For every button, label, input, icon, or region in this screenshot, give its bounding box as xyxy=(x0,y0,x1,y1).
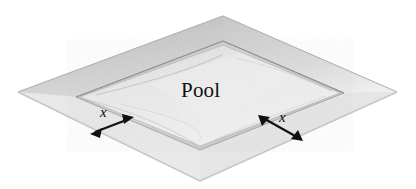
pool-diagram-canvas: Pool x x xyxy=(0,0,416,189)
pool-label: Pool xyxy=(181,78,220,102)
walk-width-left-label: x xyxy=(99,104,107,120)
pool-diagram-figure: Pool x x xyxy=(0,0,416,189)
walk-width-right-label: x xyxy=(278,109,286,125)
